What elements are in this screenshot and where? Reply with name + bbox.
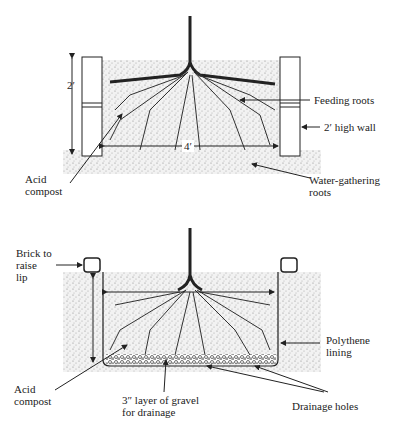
acid-compost-label: Acid compost	[14, 383, 51, 407]
brick-label: Brick to raise lip	[16, 247, 52, 283]
water-gathering-roots-label: Water-gathering roots	[309, 174, 380, 198]
diagram-raised-bed	[63, 16, 321, 183]
left-brick	[84, 258, 100, 272]
acid-compost-label: Acid compost	[25, 173, 62, 197]
feeding-roots-label: Feeding roots	[314, 94, 374, 106]
gravel-layer-label: 3″ layer of gravel for drainage	[122, 394, 199, 418]
drainage-holes-label: Drainage holes	[292, 400, 358, 412]
right-brick	[281, 258, 297, 272]
diagram-canvas	[0, 0, 394, 428]
height-dimension-label: 2′	[67, 79, 75, 91]
width-dimension-label: 4′	[182, 140, 194, 152]
gravel-layer	[106, 354, 276, 364]
wall-label: 2′ high wall	[324, 121, 376, 133]
diagram-lined-bed	[55, 228, 328, 392]
polythene-lining	[103, 272, 278, 366]
polythene-lining-label: Polythene lining	[326, 334, 370, 358]
